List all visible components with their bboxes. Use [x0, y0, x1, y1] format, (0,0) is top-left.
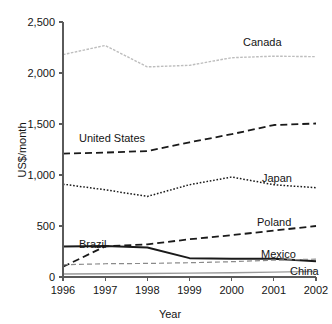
line-chart: 05001,0001,5002,0002,500 199619971998199…: [0, 0, 332, 324]
y-tick-label: 1,500: [27, 118, 55, 130]
y-tick-label: 0: [49, 271, 55, 283]
y-tick-label: 2,500: [27, 16, 55, 28]
series-line-canada: [63, 45, 316, 66]
united-states-label: United States: [79, 132, 146, 144]
y-tick-label: 1,000: [27, 169, 55, 181]
x-axis-title: Year: [159, 308, 182, 320]
series-line-china: [63, 271, 316, 274]
mexico-label: Mexico: [261, 248, 296, 260]
x-axis-tick-labels: 1996199719981999200020012002: [51, 284, 328, 296]
japan-label: Japan: [262, 172, 292, 184]
x-tick-label: 1999: [177, 284, 201, 296]
x-tick-label: 1996: [51, 284, 75, 296]
x-tick-label: 2001: [262, 284, 286, 296]
y-axis-title: US$/month: [16, 122, 28, 177]
series-inline-labels: CanadaUnited StatesJapanPolandBrazilMexi…: [79, 36, 320, 277]
brazil-label: Brazil: [79, 238, 107, 250]
china-label: China: [290, 265, 320, 277]
x-tick-label: 2002: [304, 284, 328, 296]
y-tick-label: 2,000: [27, 67, 55, 79]
x-tick-label: 2000: [219, 284, 243, 296]
y-axis-tick-labels: 05001,0001,5002,0002,500: [27, 16, 55, 283]
canada-label: Canada: [243, 36, 282, 48]
x-tick-label: 1997: [93, 284, 117, 296]
chart-canvas: 05001,0001,5002,0002,500 199619971998199…: [0, 0, 332, 324]
y-tick-label: 500: [37, 220, 55, 232]
poland-label: Poland: [257, 216, 291, 228]
x-tick-label: 1998: [135, 284, 159, 296]
